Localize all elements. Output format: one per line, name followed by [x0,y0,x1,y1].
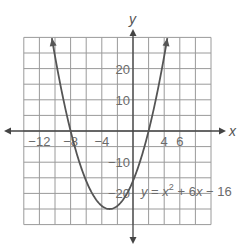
x-tick-label: −4 [94,134,109,149]
y-axis-down-arrow-icon [130,237,137,244]
y-axis-label: y [128,11,137,27]
x-tick-label: 4 [161,134,168,149]
y-tick-label: 20 [116,62,130,77]
curve-left-arrow-icon [50,38,57,46]
x-axis-right-arrow-icon [219,128,226,135]
x-tick-label: −8 [63,134,78,149]
parabola-graph: −12−8−4462010−10−20 x y y = x2 + 6x − 16 [0,0,240,248]
equation-label: y = x2 + 6x − 16 [140,182,232,199]
y-axis-up-arrow-icon [130,29,137,36]
curve-right-arrow-icon [163,38,170,46]
x-tick-label: 6 [176,134,183,149]
y-tick-label: 10 [116,93,130,108]
x-tick-label: −12 [28,134,50,149]
eq-equals: = [148,184,163,199]
eq-term-6: + 6 [174,184,196,199]
curve-arrowheads [50,38,170,46]
y-tick-label: −10 [108,155,130,170]
eq-term-16: − 16 [202,184,231,199]
x-axis-label: x [228,123,237,139]
x-axis-left-arrow-icon [4,128,11,135]
